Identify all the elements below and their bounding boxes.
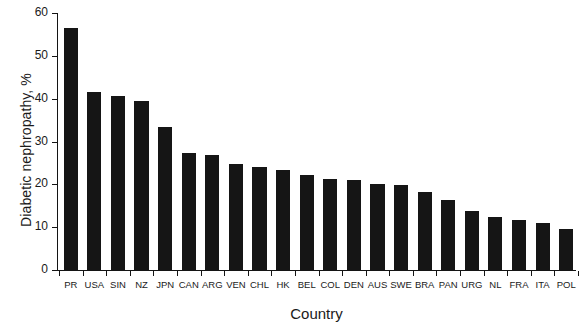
x-axis-category-label: SWE <box>390 279 412 290</box>
bar <box>559 229 573 270</box>
y-axis-tick: 0 <box>52 270 57 271</box>
bar <box>323 179 337 270</box>
x-axis-tick <box>153 271 154 276</box>
x-axis-category-label: ITA <box>536 279 550 290</box>
bar <box>229 164 243 270</box>
x-axis-tick <box>484 271 485 276</box>
x-axis-category-label: CHL <box>250 279 269 290</box>
y-axis-tick: 50 <box>52 56 57 57</box>
x-axis-tick <box>248 271 249 276</box>
bar <box>252 167 266 270</box>
x-axis-category-label: HK <box>277 279 290 290</box>
y-axis-line <box>57 13 58 271</box>
x-axis-tick <box>554 271 555 276</box>
bar <box>64 28 78 270</box>
x-axis-tick <box>389 271 390 276</box>
bar <box>158 127 172 270</box>
x-axis-category-label: JPN <box>156 279 174 290</box>
x-axis-tick <box>319 271 320 276</box>
plot-area: 0102030405060 PRUSASINNZJPNCANARGVENCHLH… <box>57 13 576 270</box>
x-axis-tick <box>342 271 343 276</box>
y-axis-title: Diabetic nephropathy, % <box>18 20 34 280</box>
y-axis-tick-label: 30 <box>35 134 48 148</box>
bar <box>370 184 384 270</box>
bar <box>182 153 196 270</box>
x-axis-category-label: NZ <box>135 279 148 290</box>
y-axis-tick: 30 <box>52 142 57 143</box>
y-axis-tick-label: 40 <box>35 91 48 105</box>
bar <box>394 185 408 270</box>
x-axis-tick <box>106 271 107 276</box>
x-axis-tick <box>413 271 414 276</box>
y-axis-tick: 10 <box>52 227 57 228</box>
x-axis-category-label: BEL <box>298 279 316 290</box>
x-axis-category-label: PAN <box>439 279 458 290</box>
bar <box>205 155 219 270</box>
x-axis-tick <box>507 271 508 276</box>
y-axis-tick-label: 20 <box>35 176 48 190</box>
bar <box>418 192 432 270</box>
bar <box>276 170 290 270</box>
y-axis-tick: 60 <box>52 13 57 14</box>
bar <box>134 101 148 270</box>
x-axis-category-label: CAN <box>179 279 199 290</box>
x-axis-tick <box>83 271 84 276</box>
y-axis-tick: 40 <box>52 99 57 100</box>
x-axis-title: Country <box>57 305 576 322</box>
bar <box>300 175 314 270</box>
bar <box>465 211 479 270</box>
x-axis-category-label: SIN <box>110 279 126 290</box>
x-axis-category-label: DEN <box>344 279 364 290</box>
bar <box>111 96 125 270</box>
bar <box>512 220 526 270</box>
x-axis-category-label: URG <box>461 279 482 290</box>
x-axis-tick <box>366 271 367 276</box>
x-axis-tick <box>201 271 202 276</box>
x-axis-tick <box>578 271 579 276</box>
y-axis-tick-label: 0 <box>41 262 48 276</box>
bar <box>536 223 550 270</box>
x-axis-tick <box>130 271 131 276</box>
x-axis-category-label: ARG <box>202 279 223 290</box>
x-axis-tick <box>271 271 272 276</box>
x-axis-category-label: PR <box>64 279 77 290</box>
bar <box>87 92 101 270</box>
bar-chart-figure: Diabetic nephropathy, % 0102030405060 PR… <box>0 0 584 335</box>
x-axis-tick <box>59 271 60 276</box>
x-axis-category-label: BRA <box>415 279 435 290</box>
x-axis-category-label: AUS <box>368 279 388 290</box>
x-axis-category-label: FRA <box>510 279 529 290</box>
bar <box>488 217 502 270</box>
bar <box>441 200 455 270</box>
x-axis-category-label: NL <box>489 279 501 290</box>
x-axis-tick <box>177 271 178 276</box>
x-axis-tick <box>460 271 461 276</box>
y-axis-tick-label: 60 <box>35 5 48 19</box>
x-axis-category-label: POL <box>557 279 576 290</box>
x-axis-tick <box>531 271 532 276</box>
x-axis-tick <box>436 271 437 276</box>
x-axis-category-label: VEN <box>226 279 246 290</box>
x-axis-line <box>57 270 576 271</box>
y-axis-tick: 20 <box>52 184 57 185</box>
x-axis-category-label: USA <box>85 279 105 290</box>
x-axis-tick <box>295 271 296 276</box>
y-axis-tick-label: 10 <box>35 219 48 233</box>
x-axis-category-label: COL <box>321 279 341 290</box>
bar <box>347 180 361 270</box>
x-axis-tick <box>224 271 225 276</box>
y-axis-tick-label: 50 <box>35 48 48 62</box>
